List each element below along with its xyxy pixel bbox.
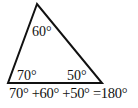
angle-label-bottom-right: 50° — [67, 69, 87, 83]
angle-label-bottom-left: 70° — [17, 69, 37, 83]
angle-label-top: 60° — [32, 25, 52, 39]
angle-sum-equation: 70° +60° +50° =180° — [9, 86, 127, 101]
